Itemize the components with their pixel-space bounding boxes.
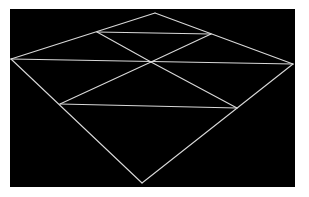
wireframe-diagram: [0, 0, 309, 197]
